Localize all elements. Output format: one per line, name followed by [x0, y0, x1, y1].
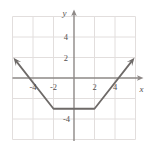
x-tick-label-2: 2	[92, 82, 96, 92]
y-tick-label-neg4: -4	[63, 114, 71, 124]
x-tick-label-neg2: -2	[50, 82, 57, 92]
x-axis-label: x	[139, 84, 144, 94]
y-tick-label-2: 2	[64, 53, 68, 63]
y-axis-label: y	[62, 8, 67, 18]
coordinate-plane: y x -4 -2 2 4 4 2 -4	[0, 0, 149, 158]
graph-figure: y x -4 -2 2 4 4 2 -4	[0, 0, 149, 158]
x-tick-label-neg4: -4	[29, 82, 37, 92]
